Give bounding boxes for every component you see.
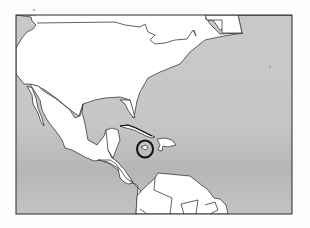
map-canvas	[0, 0, 310, 228]
landmass-canada-north	[36, 15, 205, 22]
scan-speck-ocean	[269, 66, 271, 68]
map-figure: Map of North America, Central America an…	[0, 0, 310, 228]
